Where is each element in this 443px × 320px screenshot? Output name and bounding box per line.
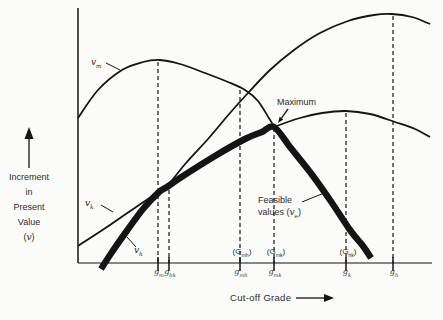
figure: Increment in Present Value (v) Cut-off G… [0, 0, 443, 320]
leader-vm [106, 63, 120, 70]
leader-vk [101, 205, 113, 212]
y-axis-title: Increment in Present Value (v) [2, 170, 56, 245]
feasible-annotation-line1: Feasible [258, 195, 292, 205]
tick-label-gmk: gmk [268, 267, 281, 278]
tick-label-gmh: gmh [234, 267, 247, 278]
x-axis-title: Cut-off Grade [230, 292, 291, 303]
y-axis-title-line: in [2, 185, 56, 200]
tick-label-ghk: ghk [164, 267, 176, 278]
cutoff-grade-chart [0, 0, 443, 320]
tick-label-gm: gm [154, 267, 164, 278]
curve-label-vk: vk [85, 198, 94, 210]
curve-label-vh: vh [134, 245, 143, 257]
y-axis-title-symbol: (v) [2, 230, 56, 245]
optimum-label-Gmh: (Gmh) [233, 247, 252, 258]
y-axis-direction-arrow-head [25, 127, 34, 139]
optimum-label-Gmk: (Gmk) [267, 247, 285, 258]
y-axis-title-line: Present [2, 200, 56, 215]
curves [78, 14, 430, 269]
y-axis-title-line: Value [2, 215, 56, 230]
maximum-annotation: Maximum [277, 97, 316, 107]
curve-vm [78, 60, 371, 258]
x-axis-direction-arrow-head [324, 294, 334, 302]
leader-feasible [302, 193, 324, 202]
curve-label-vm: vm [91, 57, 102, 69]
maximum-arrow-shaft [281, 109, 288, 118]
guide-lines [158, 16, 393, 271]
optimum-label-Ghk: (Ghk) [339, 247, 356, 258]
tick-label-gk: gk [343, 267, 351, 278]
tick-label-gh: gh [390, 267, 398, 278]
y-axis-title-line: Increment [2, 170, 56, 185]
feasible-annotation-line2: values (ve) [258, 207, 301, 219]
